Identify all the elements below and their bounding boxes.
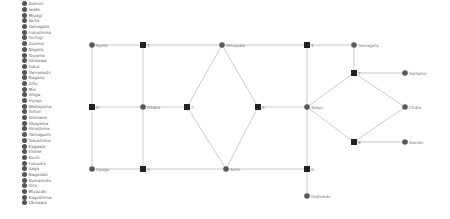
square-node-icon	[255, 104, 261, 110]
node-tokyo[interactable]: Tokyo	[304, 104, 323, 110]
node-label: Yamagata	[357, 43, 379, 48]
circle-node-icon	[351, 42, 357, 48]
circle-node-icon	[140, 104, 146, 110]
edge-tokyo-j8	[307, 107, 354, 142]
node-osaka[interactable]: Osaka	[140, 104, 160, 110]
node-label: Saitama	[409, 71, 427, 76]
node-label: Ibaraki	[409, 140, 423, 145]
node-aichi[interactable]: Aichi	[223, 166, 240, 172]
circle-node-icon	[304, 104, 310, 110]
edge-chiba-j8	[354, 107, 405, 142]
node-label: 4	[311, 43, 314, 48]
node-j4[interactable]: 4	[304, 42, 314, 48]
node-label: 6	[311, 167, 314, 172]
node-label: Shizuoka	[226, 43, 245, 48]
node-j8[interactable]: 8	[351, 139, 361, 145]
node-label: 5	[262, 105, 265, 110]
circle-node-icon	[304, 193, 310, 199]
edge-aichi-j5	[226, 107, 258, 169]
node-hyogo[interactable]: Hyogo	[89, 166, 110, 172]
circle-node-icon	[402, 70, 408, 76]
node-kyoto[interactable]: Kyoto	[89, 42, 108, 48]
node-j3[interactable]: 3	[140, 166, 150, 172]
node-label: 1	[147, 43, 150, 48]
square-node-icon	[304, 42, 310, 48]
node-label: Aichi	[230, 167, 240, 172]
circle-node-icon	[402, 139, 408, 145]
edges-layer	[92, 45, 405, 196]
node-label: 0	[96, 105, 99, 110]
node-hokkaido[interactable]: Hokkaido	[304, 193, 331, 199]
square-node-icon	[304, 166, 310, 172]
circle-node-icon	[89, 166, 95, 172]
node-label: Osaka	[147, 105, 160, 110]
node-j5[interactable]: 5	[255, 104, 265, 110]
node-label: Hokkaido	[311, 194, 331, 199]
node-label: Kyoto	[96, 43, 108, 48]
node-j6[interactable]: 6	[304, 166, 314, 172]
edge-j7-chiba	[354, 73, 405, 107]
node-label: Tokyo	[310, 105, 323, 110]
circle-node-icon	[89, 42, 95, 48]
node-j1[interactable]: 1	[140, 42, 150, 48]
node-label: 2	[191, 105, 194, 110]
node-j2[interactable]: 2	[184, 104, 194, 110]
square-node-icon	[140, 166, 146, 172]
edge-j2-aichi	[187, 107, 226, 169]
circle-node-icon	[402, 104, 408, 110]
square-node-icon	[140, 42, 146, 48]
square-node-icon	[351, 70, 357, 76]
node-chiba[interactable]: Chiba	[402, 104, 421, 110]
node-label: 8	[358, 140, 361, 145]
square-node-icon	[89, 104, 95, 110]
square-node-icon	[351, 139, 357, 145]
square-node-icon	[184, 104, 190, 110]
node-yamagata[interactable]: Yamagata	[351, 42, 379, 48]
node-label: Hyogo	[96, 167, 110, 172]
circle-node-icon	[219, 42, 225, 48]
node-label: Chiba	[409, 105, 421, 110]
node-shizuoka[interactable]: Shizuoka	[219, 42, 245, 48]
edge-j2-shizuoka	[187, 45, 222, 107]
node-ibaraki[interactable]: Ibaraki	[402, 139, 423, 145]
network-diagram: Kyoto1Shizuoka4Yamagata7Saitama0Osaka25T…	[0, 0, 450, 219]
node-j7[interactable]: 7	[351, 70, 361, 76]
node-j0[interactable]: 0	[89, 104, 99, 110]
node-label: 3	[147, 167, 150, 172]
circle-node-icon	[223, 166, 229, 172]
edge-j7-tokyo	[307, 73, 354, 107]
node-label: 7	[358, 71, 361, 76]
nodes-layer: Kyoto1Shizuoka4Yamagata7Saitama0Osaka25T…	[89, 42, 427, 199]
edge-shizuoka-j5	[222, 45, 258, 107]
node-saitama[interactable]: Saitama	[402, 70, 426, 76]
